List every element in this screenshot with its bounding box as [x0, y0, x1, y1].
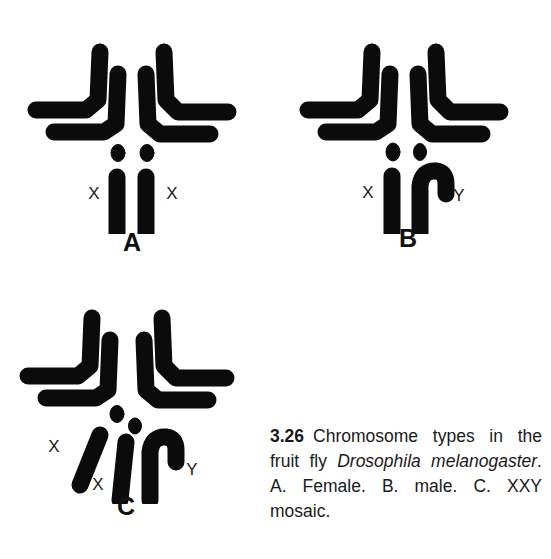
panel-letter-a: A — [112, 230, 152, 255]
panel-letter-b: B — [388, 226, 428, 251]
karyotype-c-svg — [4, 296, 250, 504]
y-chromosome — [420, 171, 446, 234]
autosome-left-inner — [36, 52, 100, 110]
karyotype-b-svg — [286, 34, 522, 234]
label-y: Y — [449, 187, 469, 204]
label-x-inner: X — [88, 476, 108, 493]
autosome-left-inner — [28, 318, 92, 376]
figure-caption: 3.26Chromosome types in the fruit fly Dr… — [270, 424, 542, 524]
label-y: Y — [182, 461, 202, 478]
panel-c-xxy-mosaic: X X Y C — [4, 296, 250, 504]
autosome-left-inner — [308, 52, 372, 110]
panel-a-female: X X A — [14, 34, 250, 234]
autosome-right-inner — [164, 52, 228, 112]
caption-species-name: Drosophila melanogaster — [337, 451, 537, 471]
dot-chromosome-left — [386, 143, 400, 161]
dot-chromosome-left — [111, 145, 125, 162]
label-x-right: X — [162, 185, 182, 202]
figure-number: 3.26 — [270, 426, 304, 446]
label-x-outer: X — [44, 438, 64, 455]
dot-chromosome-left — [110, 406, 124, 423]
autosome-right-inner — [162, 318, 226, 378]
y-chromosome — [150, 437, 176, 500]
panel-letter-c: C — [106, 494, 146, 519]
dot-chromosome-right — [414, 144, 427, 161]
karyotype-a-svg — [14, 34, 250, 234]
label-x: X — [358, 184, 378, 201]
autosome-right-inner — [436, 52, 500, 112]
label-x-left: X — [84, 185, 104, 202]
dot-chromosome-right — [140, 145, 154, 162]
dot-chromosome-right — [129, 418, 142, 434]
panel-b-male: X Y B — [286, 34, 522, 234]
figure-root: X X A X Y B — [0, 0, 551, 559]
